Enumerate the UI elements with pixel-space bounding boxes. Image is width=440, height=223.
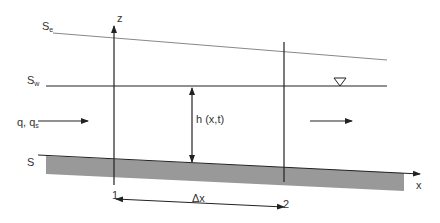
inflow-label: q, qs [17,117,39,129]
water-surface-symbol-icon [334,78,346,86]
delta-x-label: Δx [192,193,205,204]
section-1-label: 1 [112,190,118,201]
energy-line [53,33,387,60]
section-2-label: 2 [283,199,289,210]
bed-slope-label: S [27,157,34,168]
depth-label: h (x,t) [196,114,224,125]
energy-slope-label: Se [42,21,53,33]
z-axis-label: z [117,13,123,24]
open-channel-flow-diagram [0,0,440,223]
x-axis-label: x [416,180,422,191]
channel-bed [46,156,404,191]
water-slope-label: Sw [27,75,39,87]
